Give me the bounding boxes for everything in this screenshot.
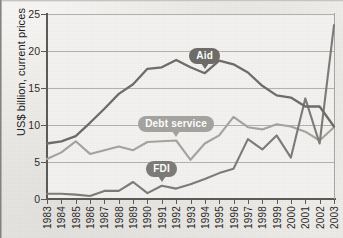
series-badge-tail-aid (201, 63, 209, 69)
series-badge-fdi: FDI (146, 161, 177, 177)
series-badge-debt-service: Debt service (138, 116, 214, 132)
scan-edge-top (0, 0, 343, 2)
series-badge-tail-debt-service (172, 131, 180, 137)
series-badge-aid: Aid (189, 48, 220, 64)
chart-screenshot: 25 20 15 10 5 0 US$ billion, current pri… (0, 0, 343, 238)
scan-edge-left (0, 0, 2, 238)
series-badge-tail-fdi (158, 176, 166, 182)
